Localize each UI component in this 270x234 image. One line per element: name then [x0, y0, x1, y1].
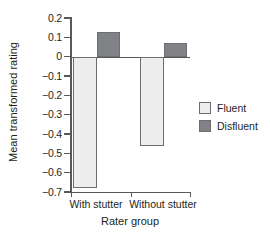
y-axis-tick-label: 0.1: [28, 32, 62, 43]
y-axis-tick-label: −0.3: [28, 109, 62, 120]
y-axis-tick-label: −0.2: [28, 90, 62, 101]
y-axis-tick-label: −0.7: [28, 187, 62, 198]
x-axis-tick: [190, 192, 191, 197]
x-axis-tick-label: Without stutter: [118, 199, 208, 210]
y-axis-tick-label: 0: [28, 51, 62, 62]
x-axis-tick: [71, 192, 72, 197]
legend-swatch-fluent: [199, 102, 211, 114]
chart-figure: Mean transformed rating 0.20.10−0.1−0.2−…: [0, 0, 270, 234]
y-axis-tick-label: −0.4: [28, 129, 62, 140]
bar-fluent-with-stutter: [73, 57, 97, 188]
legend-item-fluent[interactable]: Fluent: [199, 102, 269, 114]
bar-disfluent-with-stutter: [97, 32, 121, 57]
x-axis-tick: [131, 192, 132, 197]
legend-label: Disfluent: [217, 121, 258, 132]
legend-swatch-disfluent: [199, 120, 211, 132]
y-axis-tick-label: −0.6: [28, 167, 62, 178]
bar-fluent-without-stutter: [140, 57, 164, 146]
y-axis-tick-label: −0.1: [28, 71, 62, 82]
y-axis-title-container: Mean transformed rating: [0, 0, 26, 234]
legend-item-disfluent[interactable]: Disfluent: [199, 120, 269, 132]
bar-disfluent-without-stutter: [164, 43, 188, 57]
legend-label: Fluent: [217, 103, 246, 114]
y-axis-tick-label: −0.5: [28, 148, 62, 159]
y-axis-title: Mean transformed rating: [7, 27, 19, 177]
x-axis-title: Rater group: [60, 215, 200, 227]
y-axis-line: [70, 17, 72, 193]
y-axis-tick-label: 0.2: [28, 13, 62, 24]
chart-legend: FluentDisfluent: [199, 102, 269, 138]
